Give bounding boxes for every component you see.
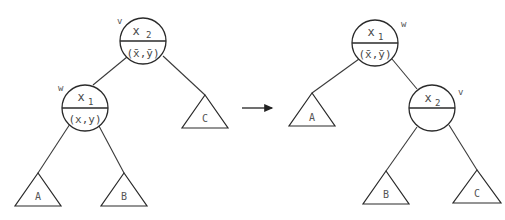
node-v-key: x [132, 24, 139, 38]
edge-v-C [163, 56, 205, 95]
subtree-B-label: B [121, 191, 127, 202]
tree-before: x 2 (x̄,ȳ) v x 1 (x,y) w C A B [15, 16, 228, 206]
node-w-tag: w [58, 83, 64, 93]
node-v-key-sub: 2 [146, 30, 151, 40]
subtree-A-after: A [289, 93, 335, 126]
node-v-after-key: x [424, 91, 431, 105]
subtree-C-label: C [202, 113, 208, 124]
node-v-after-key-sub: 2 [435, 98, 440, 108]
node-v: x 2 (x̄,ȳ) v [117, 16, 166, 64]
node-w-after-tag: w [401, 19, 407, 29]
rotation-diagram: x 2 (x̄,ȳ) v x 1 (x,y) w C A B [0, 0, 505, 220]
node-v-after: x 2 v [409, 85, 463, 131]
subtree-A-after-label: A [309, 112, 315, 123]
edge-w-A-after [312, 59, 359, 93]
edge-v-B-after [386, 127, 417, 171]
subtree-A-label: A [35, 191, 41, 202]
edge-v-w [93, 57, 127, 85]
node-w-after-pair: (x̄,ȳ) [358, 48, 391, 61]
subtree-B-after: B [363, 171, 409, 204]
node-w-after: x 1 (x̄,ȳ) w [352, 19, 407, 66]
node-v-pair: (x̄,ȳ) [126, 47, 159, 60]
node-w-after-key: x [367, 25, 374, 39]
subtree-B-after-label: B [383, 189, 389, 200]
subtree-C: C [182, 95, 228, 128]
subtree-C-after: C [453, 170, 501, 203]
edge-v-C-after [449, 125, 477, 170]
subtree-A: A [15, 173, 61, 206]
node-w: x 1 (x,y) w [58, 83, 108, 131]
edge-w-B [99, 126, 124, 173]
node-v-after-tag: v [458, 87, 463, 97]
tree-after: x 1 (x̄,ȳ) w x 2 v A B C [289, 19, 501, 204]
node-v-tag: v [117, 16, 122, 26]
node-w-key-sub: 1 [88, 97, 93, 107]
subtree-B: B [101, 173, 147, 206]
node-w-pair: (x,y) [68, 113, 101, 126]
node-w-key: x [77, 90, 84, 104]
subtree-C-after-label: C [474, 188, 480, 199]
edge-w-A [38, 124, 70, 173]
edge-w-v-after [392, 59, 417, 89]
node-w-after-key-sub: 1 [378, 32, 383, 42]
